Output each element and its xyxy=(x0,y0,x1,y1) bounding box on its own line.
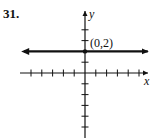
problem-number: 31. xyxy=(3,6,19,22)
left-arrow-icon xyxy=(21,48,29,55)
y-axis-label: y xyxy=(88,7,95,21)
x-axis-label: x xyxy=(143,74,150,88)
point-label: (0,2) xyxy=(90,36,113,50)
point-marker xyxy=(83,49,87,53)
graph-figure: 31. (0,2) x y xyxy=(0,0,152,138)
coordinate-plane: (0,2) x y xyxy=(0,0,152,138)
